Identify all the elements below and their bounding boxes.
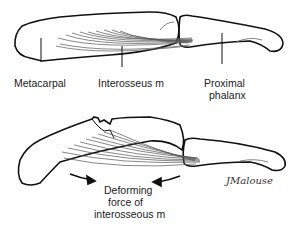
proximal-phalanx-bottom: [183, 138, 285, 170]
label-proximal-line1: Proximal: [204, 77, 245, 89]
label-metacarpal: Metacarpal: [14, 77, 66, 89]
diagram-canvas: [0, 0, 303, 231]
interosseus-muscle-top: [56, 30, 193, 51]
label-force-line1: Deforming: [104, 184, 152, 196]
label-interosseus: Interosseus m: [98, 77, 164, 89]
label-proximal-line2: phalanx: [209, 89, 246, 101]
label-force-line3: interosseous m: [94, 208, 165, 220]
artist-signature: JMalouse: [226, 175, 273, 186]
label-force-line2: force of: [108, 196, 143, 208]
proximal-phalanx-top: [179, 15, 283, 51]
